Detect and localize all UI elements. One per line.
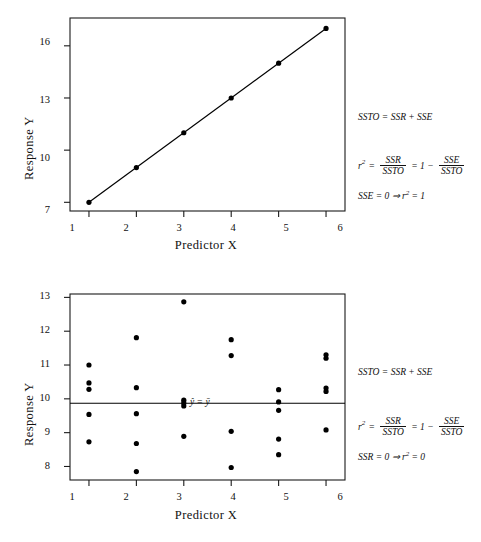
top-xtick-6: 6	[330, 222, 350, 233]
data-point	[86, 380, 91, 385]
data-point	[229, 353, 234, 358]
bottom-formula-eq2: = 1 −	[410, 422, 434, 432]
top-formula-line3-rhs: = 1	[412, 191, 426, 201]
data-point	[229, 465, 234, 470]
bottom-formula-frac2-denominator: SSTO	[439, 426, 464, 438]
top-formula-block: SSTO = SSR + SSE r2 = SSR SSTO = 1 − SSE…	[358, 0, 481, 271]
bottom-xtick-5: 5	[276, 491, 296, 502]
panel-top: 16 13 10 7 1 2 3 4 5 6 Predictor X Respo…	[0, 0, 481, 271]
data-point	[181, 434, 186, 439]
top-formula-fraction-2: SSE SSTO	[439, 155, 464, 178]
mean-line-label: ŷ = ȳ	[190, 397, 210, 407]
data-point	[276, 399, 281, 404]
top-formula-sse-implies: SSE = 0 ⇒ r2 = 1	[358, 190, 425, 202]
bottom-ytick-8: 8	[28, 460, 50, 471]
top-formula-rsquared: r2 = SSR SSTO = 1 − SSE SSTO	[358, 155, 466, 178]
bottom-formula-line3-rhs: = 0	[412, 452, 426, 462]
top-formula-eq2: = 1 −	[410, 161, 434, 171]
data-point	[86, 200, 91, 205]
bottom-formula-eq1: =	[368, 422, 376, 432]
top-ytick-7: 7	[28, 204, 50, 215]
top-formula-line3-exponent: 2	[406, 189, 410, 197]
bottom-formula-rsquared: r2 = SSR SSTO = 1 − SSE SSTO	[358, 416, 466, 439]
data-point	[134, 335, 139, 340]
data-point	[323, 389, 328, 394]
figure-root: 16 13 10 7 1 2 3 4 5 6 Predictor X Respo…	[0, 0, 481, 542]
bottom-formula-line3-lhs: SSR = 0 ⇒ r	[358, 452, 406, 462]
data-point	[86, 439, 91, 444]
bottom-xtick-2: 2	[116, 491, 136, 502]
top-formula-frac1-denominator: SSTO	[380, 165, 405, 177]
top-formula-frac2-numerator: SSE	[439, 155, 464, 166]
bottom-formula-frac1-numerator: SSR	[380, 416, 405, 427]
top-xtick-4: 4	[223, 222, 243, 233]
top-formula-ssto: SSTO = SSR + SSE	[358, 112, 432, 122]
data-point	[276, 408, 281, 413]
top-formula-frac1-numerator: SSR	[380, 155, 405, 166]
bottom-formula-r-exponent: 2	[362, 419, 366, 427]
bottom-xtick-3: 3	[169, 491, 189, 502]
data-point	[134, 165, 139, 170]
data-point	[229, 95, 234, 100]
bottom-xtick-4: 4	[223, 491, 243, 502]
data-point	[134, 385, 139, 390]
bottom-xtick-1: 1	[62, 491, 82, 502]
data-point	[323, 26, 328, 31]
bottom-formula-frac1-denominator: SSTO	[380, 426, 405, 438]
data-point	[229, 337, 234, 342]
data-point	[229, 429, 234, 434]
bottom-yaxis-title: Response Y	[22, 306, 37, 446]
bottom-formula-line3-exponent: 2	[406, 450, 410, 458]
top-xtick-5: 5	[276, 222, 296, 233]
top-formula-frac2-denominator: SSTO	[439, 165, 464, 177]
top-yaxis-title: Response Y	[22, 40, 37, 180]
bottom-xaxis-title: Predictor X	[126, 508, 286, 523]
top-formula-line3-lhs: SSE = 0 ⇒ r	[358, 191, 406, 201]
data-point	[134, 469, 139, 474]
bottom-ytick-13: 13	[28, 290, 50, 301]
bottom-xtick-6: 6	[330, 491, 350, 502]
data-point	[181, 403, 186, 408]
data-point	[323, 356, 328, 361]
top-xaxis-title: Predictor X	[126, 238, 286, 253]
top-formula-eq1: =	[368, 161, 376, 171]
data-point	[86, 412, 91, 417]
data-point	[181, 299, 186, 304]
top-xtick-2: 2	[116, 222, 136, 233]
plot-frame	[70, 18, 345, 211]
data-point	[134, 441, 139, 446]
data-point	[276, 387, 281, 392]
bottom-formula-frac2-numerator: SSE	[439, 416, 464, 427]
bottom-formula-block: SSTO = SSR + SSE r2 = SSR SSTO = 1 − SSE…	[358, 271, 481, 542]
data-point	[276, 436, 281, 441]
bottom-formula-ssr-implies: SSR = 0 ⇒ r2 = 0	[358, 451, 425, 463]
data-point	[276, 61, 281, 66]
plot-frame	[70, 294, 345, 480]
panel-bottom: 13 12 11 10 9 8 1 2 3 4 5 6 Predictor X …	[0, 271, 481, 542]
data-point	[134, 411, 139, 416]
data-point	[86, 362, 91, 367]
top-xtick-1: 1	[62, 222, 82, 233]
data-point	[181, 130, 186, 135]
bottom-formula-fraction-2: SSE SSTO	[439, 416, 464, 439]
data-point	[86, 387, 91, 392]
top-formula-fraction-1: SSR SSTO	[380, 155, 405, 178]
data-point	[276, 452, 281, 457]
bottom-formula-ssto: SSTO = SSR + SSE	[358, 367, 432, 377]
data-point	[323, 427, 328, 432]
regression-line	[89, 28, 326, 202]
top-formula-r-exponent: 2	[362, 158, 366, 166]
top-xtick-3: 3	[169, 222, 189, 233]
bottom-formula-fraction-1: SSR SSTO	[380, 416, 405, 439]
